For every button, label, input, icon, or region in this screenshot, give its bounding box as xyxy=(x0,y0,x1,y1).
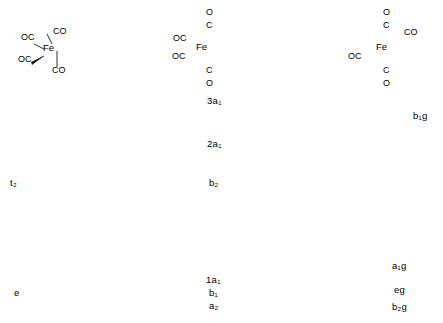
center-ligand-oc-upper: OC xyxy=(173,34,187,43)
center-ligand-oc-lower: OC xyxy=(172,52,186,61)
right-ligand-co-upper: CO xyxy=(404,28,418,37)
left-metal-label: Fe xyxy=(43,43,54,53)
center-ligand-c-top: C xyxy=(206,21,213,30)
label-b1: b₁ xyxy=(209,288,218,298)
right-ligand-oc-lower: OC xyxy=(348,52,362,61)
center-ligand-o-bottom: O xyxy=(206,79,213,88)
left-ligand-co-top: CO xyxy=(53,27,67,36)
right-metal-label: Fe xyxy=(376,42,387,52)
label-b2: b₂ xyxy=(209,178,219,188)
right-ligand-o-top: O xyxy=(383,8,390,17)
center-ligand-o-top: O xyxy=(206,8,213,17)
label-1a1: 1a₁ xyxy=(206,275,221,285)
label-e: e xyxy=(14,288,20,298)
center-ligand-c-bottom: C xyxy=(206,66,213,75)
label-2a1: 2a₁ xyxy=(207,139,222,149)
label-b2g: b₂g xyxy=(392,302,407,312)
left-ligand-oc-upper: OC xyxy=(21,33,35,42)
right-ligand-o-bottom: O xyxy=(383,79,390,88)
orbital-correlation-diagram: Fe CO OC OC CO Fe O C OC OC C O Fe O C xyxy=(0,0,443,323)
label-eg: eg xyxy=(394,285,405,295)
label-a1g: a₁g xyxy=(392,261,407,271)
label-b1g: b₁g xyxy=(413,111,428,121)
center-metal-label: Fe xyxy=(196,42,207,52)
label-t2: t₂ xyxy=(10,178,17,188)
label-3a1: 3a₁ xyxy=(207,96,222,106)
left-ligand-co-bottom: CO xyxy=(52,66,66,75)
label-a2: a₂ xyxy=(209,301,219,311)
right-ligand-c-top: C xyxy=(383,21,390,30)
left-ligand-oc-lower: OC xyxy=(18,55,32,64)
right-ligand-c-bottom: C xyxy=(383,66,390,75)
